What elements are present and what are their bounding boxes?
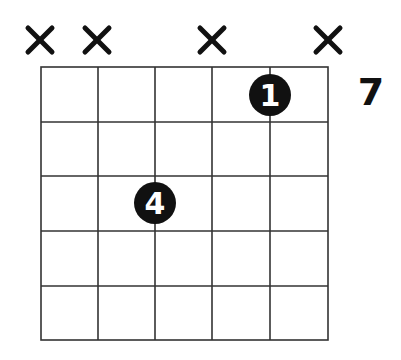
mute-x-icon xyxy=(28,28,52,52)
mute-markers xyxy=(28,28,340,52)
finger-dot-4: 4 xyxy=(134,182,176,224)
mute-x-icon xyxy=(316,28,340,52)
finger-number: 4 xyxy=(145,186,166,221)
chord-diagram: 1 4 xyxy=(0,0,401,360)
finger-number: 1 xyxy=(260,78,281,113)
mute-x-icon xyxy=(85,28,109,52)
mute-x-icon xyxy=(200,28,224,52)
finger-dot-1: 1 xyxy=(249,74,291,116)
base-fret-label: 7 xyxy=(354,70,388,114)
